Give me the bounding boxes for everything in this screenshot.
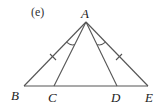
segment-ac [54, 22, 86, 86]
angle-arc-dae [97, 42, 105, 45]
point-label-e: E [144, 90, 153, 104]
point-label-d: D [110, 90, 121, 104]
segment-ab [24, 22, 86, 86]
segment-ad [86, 22, 117, 86]
figure-tag: (e) [31, 5, 44, 19]
angle-arc-bac [67, 42, 75, 45]
tick-mark-ab [50, 54, 56, 60]
point-label-c: C [48, 90, 57, 104]
point-label-a: A [80, 6, 89, 21]
triangle-diagram: (e) A B C D E [0, 0, 159, 104]
point-label-b: B [11, 88, 19, 103]
tick-mark-ae [116, 54, 122, 60]
segment-ae [86, 22, 148, 86]
